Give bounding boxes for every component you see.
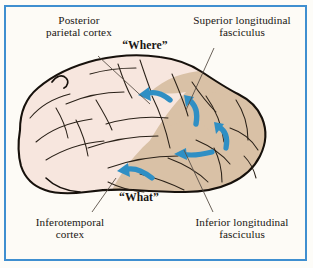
label-inferotemporal-cortex: Inferotemporal cortex: [8, 216, 132, 241]
label-posterior-parietal-cortex: Posterior parietal cortex: [20, 14, 138, 39]
label-what-stream: “What”: [108, 192, 170, 204]
brain-visual-streams-figure: Posterior parietal cortex Superior longi…: [0, 0, 313, 268]
label-where-stream: “Where”: [114, 40, 176, 52]
label-superior-longitudinal-fasciculus: Superior longitudinal fasciculus: [176, 14, 308, 39]
label-inferior-longitudinal-fasciculus: Inferior longitudinal fasciculus: [176, 216, 308, 241]
